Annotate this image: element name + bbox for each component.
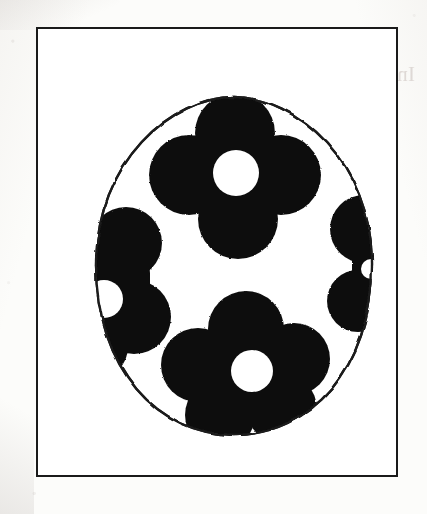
document-title: Decorated Easter Egg Template [0,0,1,1]
easter-egg-illustration [38,29,398,477]
flower-top-center [213,150,259,196]
flower-bottom-center [231,350,273,392]
illustration-frame [36,27,398,477]
page-edge-smudge-left [0,370,34,514]
flower-left-center [85,280,123,318]
scanned-page: Group size: Individual or small group [0,0,427,514]
page-edge-smudge-top [0,0,120,30]
